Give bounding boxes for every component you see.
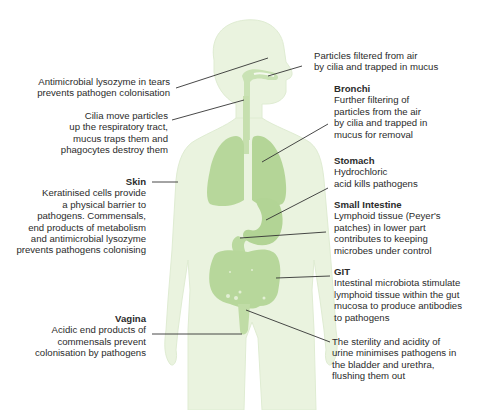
label-vagina: Vagina Acidic end products of commensals… <box>10 313 146 359</box>
label-git-title: GIT <box>334 266 484 277</box>
label-stomach: Stomach Hydrochloric acid kills pathogen… <box>334 155 484 189</box>
label-urinary-text: The sterility and acidity of urine minim… <box>332 336 484 382</box>
label-stomach-title: Stomach <box>334 155 484 166</box>
label-git: GIT Intestinal microbiota stimulate lymp… <box>334 266 484 323</box>
label-urinary: The sterility and acidity of urine minim… <box>332 336 484 382</box>
label-nose-text: Particles filtered from air by cilia and… <box>314 50 484 73</box>
label-vagina-text: Acidic end products of commensals preven… <box>10 324 146 358</box>
label-bronchi-text: Further filtering of particles from the … <box>334 94 484 140</box>
label-eyes: Antimicrobial lysozyme in tears prevents… <box>30 76 170 99</box>
label-respiratory: Cilia move particles up the respiratory … <box>30 110 168 156</box>
label-bronchi-title: Bronchi <box>334 83 484 94</box>
label-nose: Particles filtered from air by cilia and… <box>314 50 484 73</box>
label-small-intestine-title: Small Intestine <box>334 199 484 210</box>
label-git-text: Intestinal microbiota stimulate lymphoid… <box>334 277 484 323</box>
intestines <box>209 250 280 309</box>
label-vagina-title: Vagina <box>10 313 146 324</box>
label-respiratory-text: Cilia move particles up the respiratory … <box>30 110 168 156</box>
label-stomach-text: Hydrochloric acid kills pathogens <box>334 166 484 189</box>
label-skin-title: Skin <box>4 176 146 187</box>
label-eyes-text: Antimicrobial lysozyme in tears prevents… <box>30 76 170 99</box>
label-skin: Skin Keratinised cells provide a physica… <box>4 176 146 256</box>
label-skin-text: Keratinised cells provide a physical bar… <box>4 187 146 255</box>
leader-respiratory <box>172 100 244 120</box>
label-small-intestine: Small Intestine Lymphoid tissue (Peyer's… <box>334 199 484 256</box>
innate-defences-diagram: Antimicrobial lysozyme in tears prevents… <box>0 0 484 410</box>
label-small-intestine-text: Lymphoid tissue (Peyer's patches) in low… <box>334 210 484 256</box>
label-bronchi: Bronchi Further filtering of particles f… <box>334 83 484 140</box>
